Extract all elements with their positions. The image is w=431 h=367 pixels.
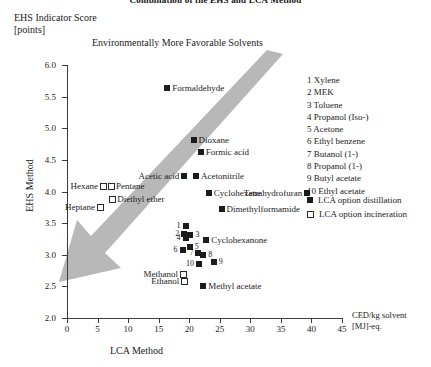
data-point[interactable] (181, 173, 187, 179)
legend-series-label: LCA option distillation (318, 193, 402, 207)
x-tick (281, 318, 282, 323)
x-axis-unit-line1: CED/kg solvent (352, 310, 407, 321)
data-point-label: Cyclohexanone (211, 235, 267, 244)
legend-item: 1 Xylene (307, 74, 369, 86)
data-point-number: 4 (177, 234, 181, 242)
data-point[interactable] (97, 204, 104, 211)
data-point[interactable] (203, 237, 209, 243)
data-point[interactable] (108, 183, 115, 190)
chart-container: Combination of the EHS and LCA Method EH… (0, 0, 431, 367)
data-point[interactable] (183, 235, 189, 241)
x-tick (128, 318, 129, 323)
data-point-number: 9 (219, 258, 223, 266)
y-tick-label: 6.0 (30, 60, 56, 70)
data-point-number: 7 (189, 249, 193, 257)
data-point[interactable] (191, 137, 197, 143)
legend-item: 7 Butanol (1-) (307, 148, 369, 160)
y-tick (62, 255, 68, 256)
y-axis-caption: EHS Indicator Score [points] (14, 12, 97, 36)
data-point[interactable] (211, 259, 217, 265)
y-tick (62, 97, 68, 98)
x-axis-line (67, 318, 342, 319)
y-tick-label: 2.0 (30, 313, 56, 323)
x-tick (159, 318, 160, 323)
x-tick-label: 35 (268, 324, 294, 334)
y-tick (62, 128, 68, 129)
legend-item: 3 Toluene (307, 99, 369, 111)
legend-item: 8 Propanol (1-) (307, 160, 369, 172)
x-tick (189, 318, 190, 323)
data-point-label: Tetrahydrofuran (244, 188, 302, 197)
data-point-label: Acetonitrile (201, 171, 244, 180)
legend-series-row: LCA option incineration (307, 207, 407, 221)
x-tick-label: 25 (207, 324, 233, 334)
x-tick (250, 318, 251, 323)
y-tick-label: 3.0 (30, 250, 56, 260)
open-square-icon (307, 211, 314, 218)
y-tick (62, 65, 68, 66)
data-point[interactable] (200, 283, 206, 289)
x-axis-unit-line2: [MJ]-eq. (352, 321, 407, 332)
data-point[interactable] (196, 261, 202, 267)
data-point-label: Formic acid (206, 147, 249, 156)
data-point[interactable] (219, 206, 225, 212)
y-tick (62, 286, 68, 287)
data-point-label: Ethanol (151, 276, 179, 285)
data-point-label: Heptane (65, 203, 95, 212)
x-tick-label: 20 (176, 324, 202, 334)
x-tick-label: 40 (298, 324, 324, 334)
legend-item: 5 Acetone (307, 123, 369, 135)
data-point[interactable] (200, 252, 206, 258)
chart-annotation: Environmentally More Favorable Solvents (92, 37, 263, 48)
x-tick-label: 45 (329, 324, 355, 334)
numbered-solvent-legend: 1 Xylene2 MEK3 Toluene4 Propanol (Iso-)5… (307, 74, 369, 197)
y-tick (62, 160, 68, 161)
data-point-number: 10 (186, 260, 194, 268)
data-point[interactable] (183, 223, 189, 229)
x-axis-title: LCA Method (110, 345, 163, 356)
legend-series-label: LCA option incineration (319, 207, 407, 221)
y-tick-label: 5.5 (30, 92, 56, 102)
legend-item: 9 Butyl acetate (307, 172, 369, 184)
y-tick-label: 5.0 (30, 123, 56, 133)
x-tick (220, 318, 221, 323)
data-point[interactable] (193, 173, 199, 179)
y-tick (62, 223, 68, 224)
y-tick-label: 4.0 (30, 187, 56, 197)
data-point[interactable] (181, 278, 188, 285)
legend-item: 6 Ethyl benzene (307, 135, 369, 147)
y-tick-label: 2.5 (30, 281, 56, 291)
legend-item: 2 MEK (307, 86, 369, 98)
data-point[interactable] (109, 196, 116, 203)
data-point[interactable] (198, 149, 204, 155)
data-point-label: Dimethylformamide (227, 204, 300, 213)
data-point[interactable] (164, 85, 170, 91)
y-axis-caption-line2: [points] (14, 24, 97, 36)
data-point-number: 5 (195, 243, 199, 251)
y-tick-label: 3.5 (30, 218, 56, 228)
y-axis-caption-line1: EHS Indicator Score (14, 12, 97, 23)
data-point-label: Hexane (71, 181, 98, 190)
x-axis-unit: CED/kg solvent [MJ]-eq. (352, 310, 407, 332)
data-point[interactable] (100, 183, 107, 190)
data-point-number: 6 (174, 246, 178, 254)
data-point-label: Dioxane (199, 135, 230, 144)
data-point-label: Diethyl ether (117, 195, 164, 204)
legend-series-row: LCA option distillation (307, 193, 407, 207)
data-point-label: Acetic acid (139, 171, 180, 180)
filled-square-icon (307, 197, 313, 203)
chart-title: Combination of the EHS and LCA Method (0, 0, 431, 5)
data-point-label: Formaldehyde (172, 84, 224, 93)
data-point[interactable] (180, 271, 187, 278)
data-point[interactable] (180, 247, 186, 253)
x-tick-label: 30 (237, 324, 263, 334)
x-tick-label: 10 (115, 324, 141, 334)
x-tick-label: 15 (146, 324, 172, 334)
x-tick (67, 318, 68, 323)
x-tick (311, 318, 312, 323)
data-point[interactable] (206, 190, 212, 196)
data-point-label: Methyl acetate (208, 282, 261, 291)
data-point-number: 8 (208, 251, 212, 259)
data-point-number: 3 (195, 231, 199, 239)
x-tick-label: 5 (85, 324, 111, 334)
